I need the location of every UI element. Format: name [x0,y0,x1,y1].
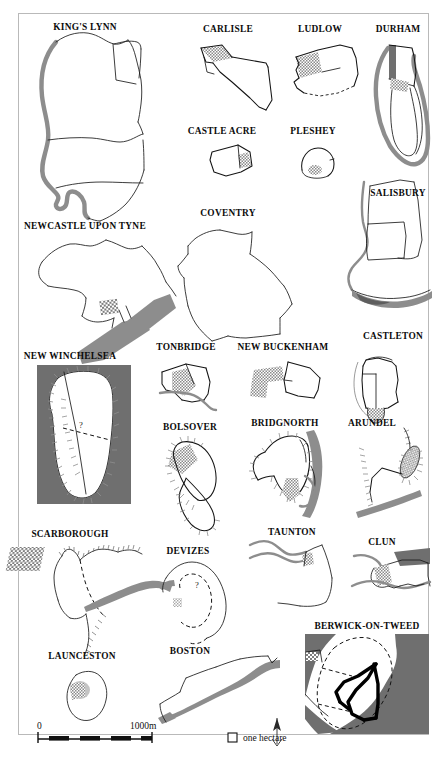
town-label-newcastle: NEWCASTLE UPON TYNE [24,221,146,231]
town-label-castle-acre: CASTLE ACRE [188,126,257,136]
town-label-tonbridge: TONBRIDGE [156,342,215,352]
town-plan-tonbridge [160,364,216,410]
town-label-new-buckenham: NEW BUCKENHAM [238,342,329,352]
town-label-pleshey: PLESHEY [290,126,336,136]
town-plan-durham [376,45,428,164]
town-label-devizes: DEVIZES [167,546,210,556]
town-plan-launceston [67,671,107,720]
town-label-new-winchelsea: NEW WINCHELSEA [24,351,117,361]
annotation-new-winchelsea-query: ? [79,420,83,430]
town-plan-arundel [356,428,424,518]
town-label-taunton: TAUNTON [268,527,316,537]
town-label-bolsover: BOLSOVER [163,422,217,432]
town-plan-taunton [250,541,332,606]
figure-root: KING'S LYNN CARLISLE LUDLOW [0,0,443,764]
scale-bar: 0 1000m [37,721,157,743]
legend-one-hectare: one hectare [228,733,287,743]
town-plan-scarborough [6,545,175,656]
town-plan-bridgnorth [249,430,322,518]
town-label-salisbury: SALISBURY [370,188,426,198]
town-label-scarborough: SCARBOROUGH [31,529,109,539]
town-plan-pleshey [302,148,334,178]
town-label-ludlow: LUDLOW [298,24,343,34]
town-plan-coventry [178,230,292,341]
town-plan-salisbury [349,180,432,308]
north-arrow: N [272,718,282,746]
town-plan-boston [158,656,280,724]
scale-bar-zero-label: 0 [37,721,42,731]
hectare-swatch [228,733,237,742]
town-plan-bolsover [165,436,220,536]
town-plan-ludlow [294,45,358,96]
town-label-castleton: CASTLETON [363,331,423,341]
town-label-launceston: LAUNCESTON [48,651,115,661]
scale-bar-max-label: 1000m [130,721,157,731]
town-plan-carlisle [201,45,272,110]
town-plan-berwick-on-tweed [288,634,429,734]
town-plan-devizes: ? [163,562,226,644]
town-plan-kings-lynn [42,33,144,221]
town-label-bridgnorth: BRIDGNORTH [251,418,319,428]
town-label-durham: DURHAM [376,24,421,34]
town-label-coventry: COVENTRY [200,208,255,218]
town-plan-new-winchelsea: ? [37,365,131,504]
town-plan-new-buckenham [250,362,320,398]
annotation-devizes-query: ? [195,580,199,590]
town-label-arundel: ARUNDEL [348,418,396,428]
town-plan-clun [352,548,430,588]
town-label-kings-lynn: KING'S LYNN [53,22,117,32]
town-label-clun: CLUN [368,537,396,547]
town-plans-plate: KING'S LYNN CARLISLE LUDLOW [0,0,443,764]
town-label-boston: BOSTON [170,646,210,656]
town-label-carlisle: CARLISLE [203,24,253,34]
town-label-berwick-on-tweed: BERWICK-ON-TWEED [314,621,419,631]
town-plan-castleton [354,357,398,423]
town-plan-castle-acre [210,145,252,176]
